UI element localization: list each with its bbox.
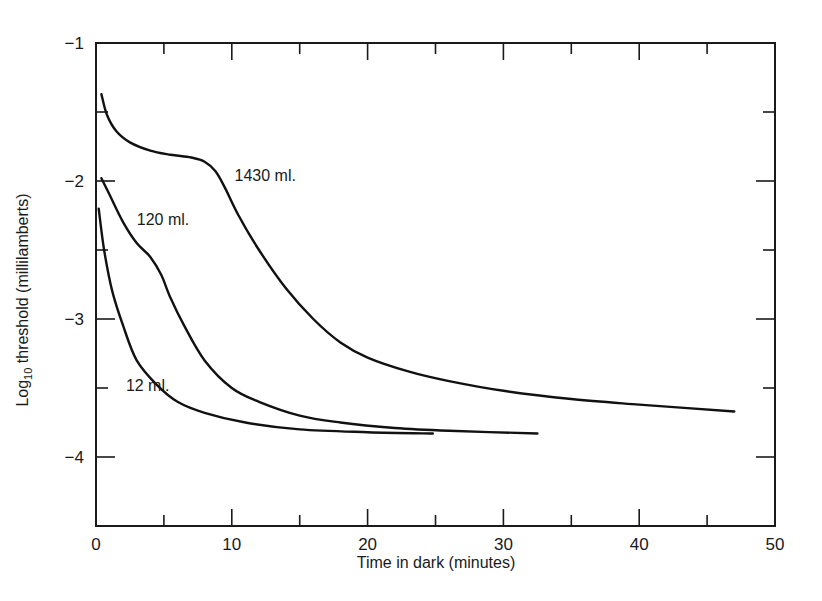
x-tick-label: 30: [494, 535, 513, 554]
curve-label: 120 ml.: [137, 211, 189, 228]
x-tick-label: 10: [222, 535, 241, 554]
x-tick-label: 50: [766, 535, 785, 554]
plot-frame: [96, 43, 775, 526]
curve-label: 12 ml.: [126, 377, 170, 394]
curve-1430ml: [101, 94, 734, 411]
y-tick-label: −2: [65, 172, 84, 191]
curve-12ml: [99, 209, 433, 434]
x-tick-label: 40: [630, 535, 649, 554]
x-tick-label: 0: [91, 535, 100, 554]
y-tick-label: −3: [65, 310, 84, 329]
y-axis-title: Log10 threshold (millilamberts): [14, 193, 34, 406]
x-tick-label: 20: [358, 535, 377, 554]
dark-adaptation-chart: 01020304050−1−2−3−4 1430 ml.120 ml.12 ml…: [0, 0, 822, 601]
tick-labels: 01020304050−1−2−3−4: [65, 34, 785, 554]
curve-label: 1430 ml.: [235, 167, 296, 184]
axis-ticks: [96, 43, 775, 526]
curve-labels: 1430 ml.120 ml.12 ml.: [126, 167, 296, 394]
curves: [99, 94, 735, 433]
x-axis-title: Time in dark (minutes): [357, 554, 516, 571]
y-tick-label: −4: [65, 448, 84, 467]
y-tick-label: −1: [65, 34, 84, 53]
